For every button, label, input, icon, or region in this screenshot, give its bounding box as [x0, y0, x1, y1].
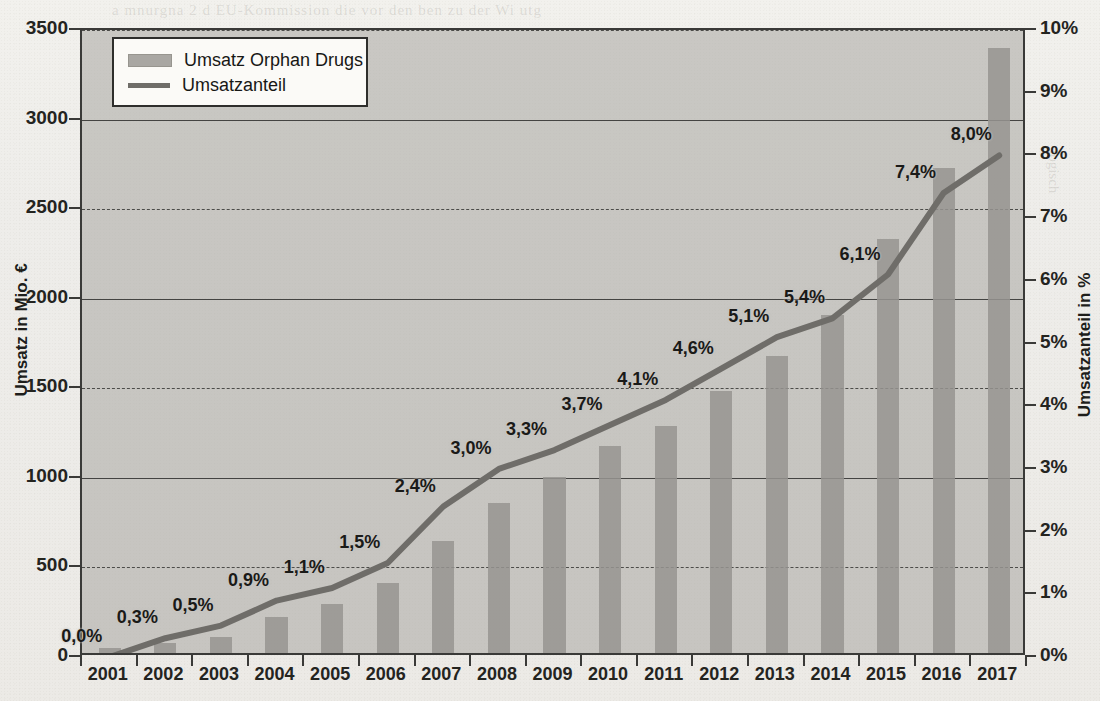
legend-item-umsatzanteil: Umsatzanteil: [128, 73, 366, 98]
plot-area: Umsatz Orphan Drugs Umsatzanteil: [80, 28, 1025, 655]
y-axis-right-tick-mark: [1025, 216, 1036, 218]
data-label: 0,5%: [172, 595, 213, 616]
y-axis-left-tick-mark: [69, 118, 80, 120]
y-axis-right-tick-label: 9%: [1040, 80, 1067, 102]
y-axis-right-tick-label: 1%: [1040, 581, 1067, 603]
x-axis-tick-mark: [302, 655, 304, 666]
x-axis-tick-mark: [803, 655, 805, 666]
y-axis-right-tick-mark: [1025, 342, 1036, 344]
data-label: 6,1%: [840, 244, 881, 265]
x-axis-tick-label: 2006: [366, 664, 406, 685]
y-axis-left-tick-label: 2500: [6, 196, 68, 218]
data-label: 5,1%: [728, 306, 769, 327]
data-label: 5,4%: [784, 287, 825, 308]
y-axis-right-tick-mark: [1025, 592, 1036, 594]
y-axis-left-tick-mark: [69, 297, 80, 299]
x-axis-tick-label: 2010: [588, 664, 628, 685]
y-axis-left-tick-label: 3000: [6, 107, 68, 129]
y-axis-left-tick-mark: [69, 476, 80, 478]
bar-swatch-icon: [128, 54, 172, 67]
y-axis-left-tick-label: 1000: [6, 465, 68, 487]
x-axis-tick-mark: [636, 655, 638, 666]
y-axis-right-tick-mark: [1025, 404, 1036, 406]
x-axis-tick-label: 2015: [866, 664, 906, 685]
y-axis-right-tick-label: 0%: [1040, 644, 1067, 666]
data-label: 0,0%: [61, 626, 102, 647]
x-axis-tick-label: 2003: [199, 664, 239, 685]
x-axis-tick-mark: [580, 655, 582, 666]
y-axis-left-tick-label: 3500: [6, 17, 68, 39]
y-axis-right-tick-mark: [1025, 91, 1036, 93]
y-axis-right-tick-label: 6%: [1040, 268, 1067, 290]
y-axis-right-tick-label: 7%: [1040, 205, 1067, 227]
y-axis-right-tick-mark: [1025, 153, 1036, 155]
x-axis-tick-label: 2008: [477, 664, 517, 685]
y-axis-left-tick-mark: [69, 565, 80, 567]
y-axis-right-tick-label: 5%: [1040, 331, 1067, 353]
legend-label: Umsatz Orphan Drugs: [184, 50, 363, 71]
x-axis-tick-label: 2007: [421, 664, 461, 685]
data-label: 3,7%: [562, 394, 603, 415]
y-axis-left-tick-label: 1500: [6, 375, 68, 397]
y-axis-left-tick-mark: [69, 655, 80, 657]
data-label: 7,4%: [895, 162, 936, 183]
x-axis-tick-label: 2016: [922, 664, 962, 685]
y-axis-right-tick-label: 2%: [1040, 519, 1067, 541]
x-axis-tick-mark: [969, 655, 971, 666]
x-axis-tick-mark: [914, 655, 916, 666]
x-axis-tick-label: 2012: [699, 664, 739, 685]
x-axis-tick-label: 2001: [88, 664, 128, 685]
x-axis-tick-mark: [525, 655, 527, 666]
x-axis-tick-label: 2002: [143, 664, 183, 685]
y-axis-right-tick-mark: [1025, 279, 1036, 281]
legend-item-umsatz-orphan-drugs: Umsatz Orphan Drugs: [128, 48, 366, 73]
x-axis-tick-label: 2009: [532, 664, 572, 685]
y-axis-right-tick-mark: [1025, 28, 1036, 30]
x-axis-tick-label: 2004: [255, 664, 295, 685]
plot-inner: [82, 30, 1023, 653]
data-label: 8,0%: [951, 124, 992, 145]
x-axis-tick-mark: [1025, 655, 1027, 666]
x-axis-tick-label: 2013: [755, 664, 795, 685]
x-axis-tick-mark: [747, 655, 749, 666]
x-axis-tick-mark: [414, 655, 416, 666]
y-axis-left-title: Umsatz in Mio. €: [12, 210, 32, 450]
data-label: 4,6%: [673, 338, 714, 359]
y-axis-left-tick-mark: [69, 386, 80, 388]
data-label: 0,9%: [228, 570, 269, 591]
x-axis-tick-mark: [358, 655, 360, 666]
line-series: [82, 30, 1023, 653]
x-axis-tick-label: 2005: [310, 664, 350, 685]
y-axis-left-tick-mark: [69, 207, 80, 209]
legend-label: Umsatzanteil: [182, 75, 286, 96]
y-axis-right-tick-label: 4%: [1040, 393, 1067, 415]
data-label: 1,5%: [339, 532, 380, 553]
chart-figure: Umsatz in Mio. € Umsatzanteil in % Umsat…: [0, 0, 1100, 701]
data-label: 0,3%: [117, 607, 158, 628]
x-axis-tick-mark: [469, 655, 471, 666]
data-label: 4,1%: [617, 369, 658, 390]
y-axis-right-tick-label: 10%: [1040, 17, 1078, 39]
line-swatch-icon: [128, 83, 170, 88]
y-axis-right-tick-mark: [1025, 467, 1036, 469]
data-label: 3,0%: [450, 438, 491, 459]
x-axis-tick-mark: [136, 655, 138, 666]
y-axis-right-tick-label: 8%: [1040, 142, 1067, 164]
x-axis-tick-mark: [858, 655, 860, 666]
y-axis-right-tick-mark: [1025, 530, 1036, 532]
x-axis-tick-mark: [691, 655, 693, 666]
x-axis-tick-mark: [247, 655, 249, 666]
y-axis-right-title: Umsatzanteil in %: [1075, 225, 1095, 465]
y-axis-left-tick-label: 2000: [6, 286, 68, 308]
x-axis-tick-mark: [191, 655, 193, 666]
y-axis-left-tick-label: 0: [6, 644, 68, 666]
data-label: 3,3%: [506, 419, 547, 440]
y-axis-right-tick-label: 3%: [1040, 456, 1067, 478]
x-axis-tick-label: 2011: [644, 664, 683, 685]
y-axis-left-tick-mark: [69, 28, 80, 30]
x-axis-tick-label: 2017: [977, 664, 1017, 685]
data-label: 2,4%: [395, 476, 436, 497]
chart-legend: Umsatz Orphan Drugs Umsatzanteil: [112, 37, 368, 107]
x-axis-tick-label: 2014: [810, 664, 850, 685]
x-axis-tick-mark: [80, 655, 82, 666]
